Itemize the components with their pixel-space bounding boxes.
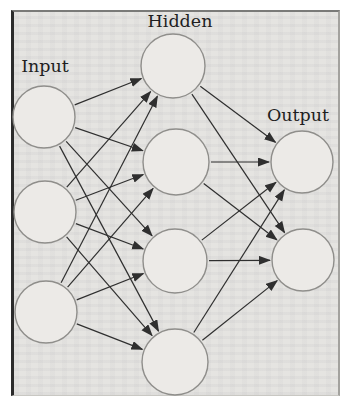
hidden-node-h1 bbox=[141, 34, 205, 98]
edge-i2-h2 bbox=[76, 175, 144, 201]
hidden-node-h2 bbox=[143, 129, 209, 195]
neural-network-diagram: InputHiddenOutput bbox=[0, 0, 351, 407]
edges-layer bbox=[60, 79, 285, 350]
input-node-i1 bbox=[13, 86, 75, 148]
edge-i2-h3 bbox=[76, 224, 143, 249]
edge-i2-h1 bbox=[67, 92, 151, 188]
label-output: Output bbox=[267, 105, 329, 125]
edge-i3-h2 bbox=[68, 188, 154, 287]
edge-i1-h1 bbox=[75, 79, 142, 105]
hidden-node-h4 bbox=[142, 329, 208, 395]
scanned-figure-page: InputHiddenOutput bbox=[0, 0, 351, 407]
edge-h1-o1 bbox=[200, 86, 275, 142]
label-input: Input bbox=[21, 56, 69, 76]
output-node-o1 bbox=[271, 131, 333, 193]
hidden-node-h3 bbox=[143, 229, 207, 293]
label-hidden: Hidden bbox=[148, 11, 213, 31]
nodes-layer bbox=[13, 34, 334, 395]
edge-i3-h3 bbox=[77, 274, 144, 300]
edge-i3-h4 bbox=[77, 324, 143, 350]
input-node-i3 bbox=[15, 281, 77, 343]
output-node-o2 bbox=[272, 229, 334, 291]
edge-i2-h4 bbox=[67, 237, 153, 336]
input-node-i2 bbox=[14, 181, 76, 243]
edge-h2-o2 bbox=[204, 183, 277, 239]
edge-h4-o2 bbox=[202, 281, 277, 341]
